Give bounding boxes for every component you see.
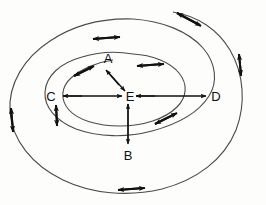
spiral-marker-inner-upper-left [74,66,94,76]
spiral-diagram-canvas: A B C D E [0,0,266,205]
spiral-middle-curve [45,19,215,136]
vertex-label-b: B [124,148,133,163]
spiral-diagram: A B C D E [0,0,266,205]
spiral-marker-middle-top [93,37,120,39]
vertex-label-a: A [104,51,113,66]
spiral-marker-outer-left [11,108,13,132]
spiral-marker-inner-left-at-c [56,105,57,126]
vertex-label-e: E [126,89,135,104]
vertex-label-d: D [211,89,220,104]
spiral-marker-middle-upper-right [137,64,164,66]
spiral-marker-outer-bottom [118,188,145,190]
vertex-label-c: C [46,89,55,104]
connector-a-to-e [106,70,125,91]
